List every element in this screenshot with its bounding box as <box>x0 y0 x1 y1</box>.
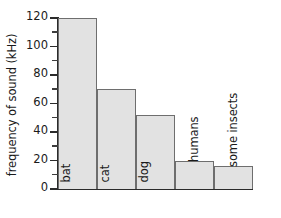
y-tick-label: 80 <box>33 68 48 80</box>
plot-area: 020406080100120 batcatdoghumanssome inse… <box>57 17 255 195</box>
y-tick-label: 20 <box>33 154 48 166</box>
y-tick-label: 120 <box>26 11 48 23</box>
bars-layer: batcatdoghumanssome insects <box>58 17 254 189</box>
bar: bat <box>58 18 97 189</box>
y-tick-mark <box>50 131 58 133</box>
bar-label: cat <box>100 164 112 182</box>
y-tick-mark <box>50 160 58 162</box>
bar: dog <box>136 115 175 189</box>
y-tick-label: 100 <box>26 40 48 52</box>
y-axis-title: frequency of sound (kHz) <box>4 5 20 205</box>
y-tick-mark <box>50 188 58 190</box>
y-tick-mark <box>50 74 58 76</box>
bar-label: dog <box>139 161 151 182</box>
bar-label: bat <box>61 163 73 182</box>
y-tick-label: 0 <box>41 182 48 194</box>
bar-label: some insects <box>228 93 240 167</box>
y-tick-mark <box>50 17 58 19</box>
bar-label: humans <box>189 116 201 162</box>
y-tick-label: 40 <box>33 125 48 137</box>
y-tick-mark <box>50 46 58 48</box>
bar: cat <box>97 89 136 189</box>
bar: humans <box>175 161 214 190</box>
y-tick-label: 60 <box>33 97 48 109</box>
y-tick-mark <box>50 103 58 105</box>
bar-chart-figure: frequency of sound (kHz) 020406080100120… <box>0 0 281 218</box>
bar: some insects <box>214 166 253 189</box>
